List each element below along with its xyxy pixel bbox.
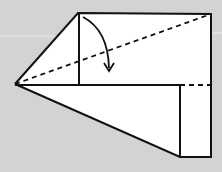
origami-diagram bbox=[0, 0, 222, 172]
fold-diagram-svg bbox=[0, 0, 222, 172]
